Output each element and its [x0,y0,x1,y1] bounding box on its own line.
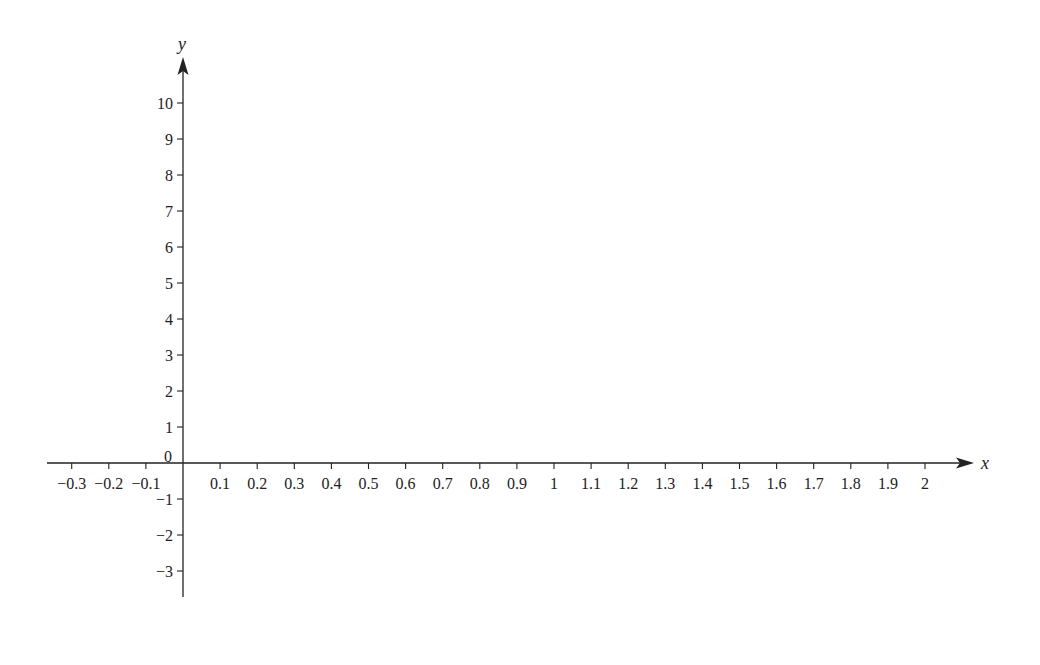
y-tick-label: 1 [165,419,173,436]
x-tick-label: 0.3 [284,475,304,492]
y-tick-label: 9 [165,131,173,148]
x-tick-label: 1.1 [581,475,601,492]
y-tick-label: −2 [156,527,173,544]
x-tick-label: 1.6 [767,475,787,492]
y-tick-label: 7 [165,203,173,220]
x-tick-label: 0.7 [433,475,453,492]
x-tick-label: 0.1 [210,475,230,492]
x-tick-label: 0.6 [396,475,416,492]
y-ticks: 10987654321−1−2−3 [156,95,183,580]
x-tick-label: −0.2 [94,475,123,492]
x-tick-label: 1.4 [692,475,712,492]
y-axis: y 10987654321−1−2−3 [156,34,189,597]
x-tick-label: −0.1 [131,475,160,492]
y-tick-label: 6 [165,239,173,256]
x-tick-label: 1.7 [804,475,824,492]
x-tick-label: 0.4 [321,475,341,492]
x-tick-label: 1 [550,475,558,492]
origin-label: 0 [164,448,172,465]
y-tick-label: 2 [165,383,173,400]
x-tick-label: 1.8 [841,475,861,492]
x-axis: x −0.3−0.2−0.10.10.20.30.40.50.60.70.80.… [47,453,989,492]
x-tick-label: 0.8 [470,475,490,492]
x-tick-label: 0.5 [359,475,379,492]
x-tick-label: −0.3 [57,475,86,492]
x-tick-label: 0.2 [247,475,267,492]
x-tick-label: 2 [921,475,929,492]
y-tick-label: 8 [165,167,173,184]
x-ticks: −0.3−0.2−0.10.10.20.30.40.50.60.70.80.91… [57,463,929,492]
coordinate-axes-chart: x −0.3−0.2−0.10.10.20.30.40.50.60.70.80.… [0,0,1040,665]
x-tick-label: 1.5 [730,475,750,492]
x-axis-title: x [980,453,989,473]
x-tick-label: 1.2 [618,475,638,492]
y-tick-label: 10 [157,95,173,112]
y-axis-title: y [176,34,186,54]
y-tick-label: 3 [165,347,173,364]
y-tick-label: −3 [156,563,173,580]
y-tick-label: 5 [165,275,173,292]
x-tick-label: 1.9 [878,475,898,492]
y-tick-label: 4 [165,311,173,328]
x-tick-label: 0.9 [507,475,527,492]
y-tick-label: −1 [156,491,173,508]
x-tick-label: 1.3 [655,475,675,492]
